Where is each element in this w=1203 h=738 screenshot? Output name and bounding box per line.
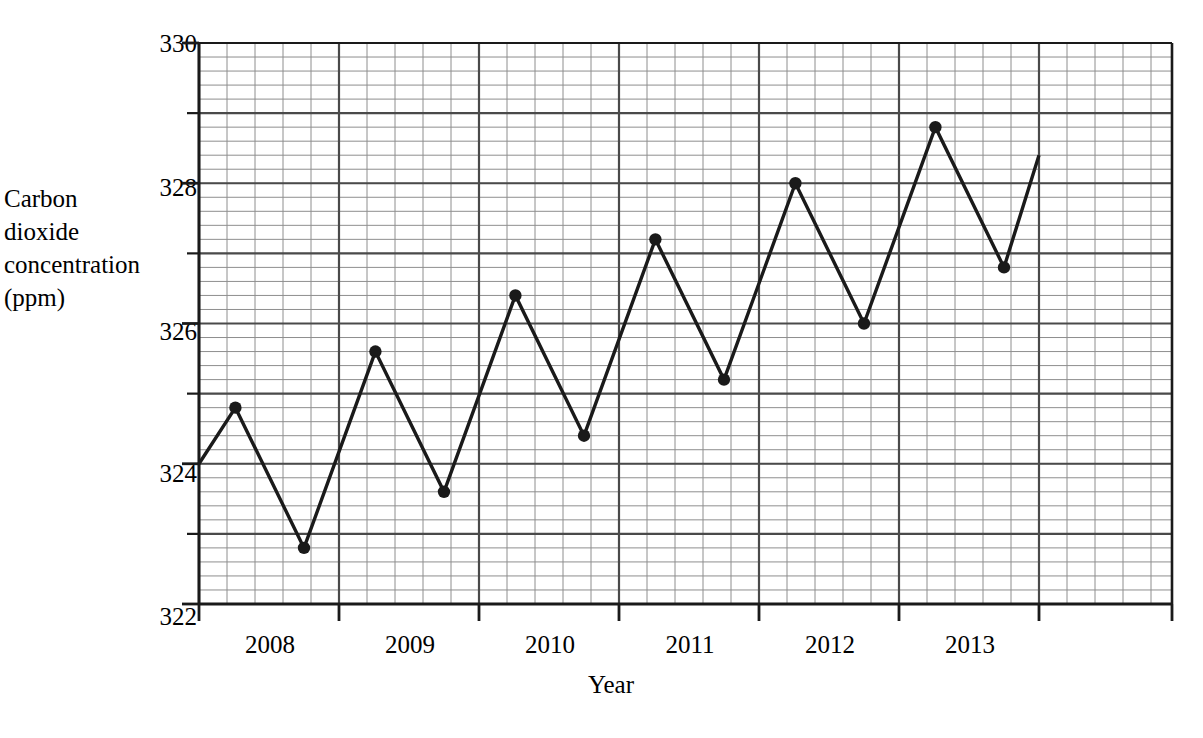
- co2-concentration-line-chart: Carbon dioxide concentration (ppm) 330 3…: [0, 0, 1203, 738]
- plot-area: [0, 0, 1203, 738]
